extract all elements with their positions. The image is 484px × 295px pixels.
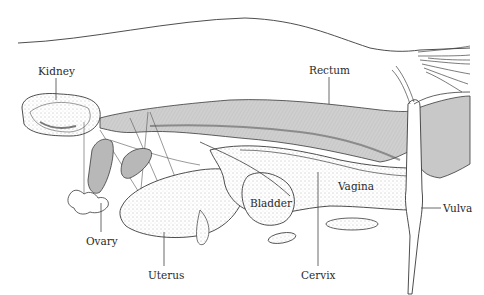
tail-hairs (418, 46, 470, 92)
reproductive-tract-illustration (0, 0, 484, 295)
label-vulva: Vulva (443, 203, 472, 214)
uterine-horn-left (88, 139, 113, 193)
uterine-horn-right (121, 148, 151, 178)
anatomy-diagram: Kidney Rectum Bladder Vagina Vulva Ovary… (0, 0, 484, 295)
ovary-shape (68, 190, 108, 214)
label-uterus: Uterus (148, 270, 184, 281)
label-kidney: Kidney (38, 66, 75, 77)
label-rectum: Rectum (309, 65, 350, 76)
rectum-right (418, 96, 470, 178)
vulva-shape (405, 100, 422, 294)
label-bladder: Bladder (250, 198, 292, 209)
label-ovary: Ovary (86, 236, 118, 247)
label-cervix: Cervix (301, 270, 335, 281)
label-vagina: Vagina (338, 181, 374, 192)
body-outline (18, 18, 470, 51)
pubic-bone-section-1 (267, 231, 296, 246)
kidney-shape (22, 94, 100, 136)
pubic-bone-section-2 (326, 218, 378, 230)
